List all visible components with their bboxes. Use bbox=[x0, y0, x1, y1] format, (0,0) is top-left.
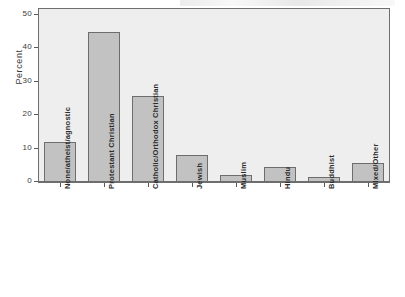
y-tick-label: 50 bbox=[23, 9, 33, 18]
y-tick-label: 30 bbox=[23, 76, 33, 85]
y-tick-label: 0 bbox=[27, 176, 32, 185]
x-tick-mark bbox=[148, 183, 149, 187]
y-tick-mark bbox=[34, 81, 38, 82]
y-tick-mark bbox=[34, 47, 38, 48]
x-tick-mark bbox=[368, 183, 369, 187]
bar-chart: Percent 01020304050 None/atheist/agnosti… bbox=[0, 0, 405, 297]
x-tick-label: Muslim bbox=[239, 162, 248, 189]
x-tick-mark bbox=[280, 183, 281, 187]
x-tick-label: Hindu bbox=[283, 167, 292, 189]
x-tick-label: Mixed/Other bbox=[371, 143, 380, 189]
y-tick-mark bbox=[34, 14, 38, 15]
y-tick-label: 20 bbox=[23, 109, 33, 118]
x-tick-label: Protestant Christian bbox=[107, 113, 116, 189]
x-tick-mark bbox=[104, 183, 105, 187]
scan-artifact bbox=[180, 0, 395, 6]
y-tick-label: 10 bbox=[23, 143, 33, 152]
x-tick-mark bbox=[192, 183, 193, 187]
x-tick-label: None/atheist/agnostic bbox=[63, 107, 72, 189]
x-tick-mark bbox=[324, 183, 325, 187]
x-tick-label: Jewish bbox=[195, 163, 204, 189]
x-tick-label: Catholic/Orthodox Christian bbox=[151, 84, 160, 189]
x-tick-mark bbox=[60, 183, 61, 187]
x-tick-mark bbox=[236, 183, 237, 187]
y-tick-label: 40 bbox=[23, 42, 33, 51]
y-tick-mark bbox=[34, 148, 38, 149]
y-tick-mark bbox=[34, 114, 38, 115]
x-tick-label: Buddhist bbox=[327, 155, 336, 189]
x-axis-line bbox=[38, 182, 390, 183]
